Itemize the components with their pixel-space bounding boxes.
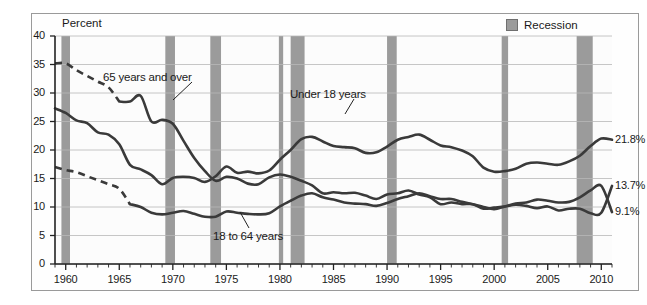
legend: Recession (506, 19, 578, 31)
x-tick-label: 1980 (257, 273, 303, 285)
x-tick-label: 1975 (203, 273, 249, 285)
x-tick-label: 1965 (96, 273, 142, 285)
end-label-18-to-64: 9.1% (615, 205, 639, 217)
y-axis-title: Percent (62, 17, 102, 29)
x-tick-label: 1990 (364, 273, 410, 285)
annotation-18-to-64: 18 to 64 years (213, 230, 283, 242)
y-tick-label: 40 (19, 29, 45, 41)
x-tick-label: 1960 (43, 273, 89, 285)
annotation-under-18: Under 18 years (290, 88, 366, 100)
y-tick-label: 10 (19, 200, 45, 212)
legend-label-recession: Recession (524, 19, 578, 31)
recession-swatch-icon (506, 19, 518, 31)
x-tick-label: 2000 (471, 273, 517, 285)
y-tick-label: 15 (19, 172, 45, 184)
annotation-65-and-over: 65 years and over (103, 71, 192, 83)
y-tick-label: 30 (19, 86, 45, 98)
x-tick-label: 1995 (418, 273, 464, 285)
x-tick-label: 2010 (578, 273, 624, 285)
y-tick-label: 5 (19, 229, 45, 241)
y-tick-label: 0 (19, 257, 45, 269)
end-label-65-and-over: 13.7% (615, 179, 645, 191)
end-label-under-18: 21.8% (615, 133, 645, 145)
chart-page: Percent Recession 0510152025303540 19601… (0, 0, 647, 305)
y-tick-label: 25 (19, 115, 45, 127)
y-tick-label: 35 (19, 58, 45, 70)
x-tick-label: 2005 (525, 273, 571, 285)
y-tick-label: 20 (19, 143, 45, 155)
x-tick-label: 1970 (150, 273, 196, 285)
x-tick-label: 1985 (311, 273, 357, 285)
